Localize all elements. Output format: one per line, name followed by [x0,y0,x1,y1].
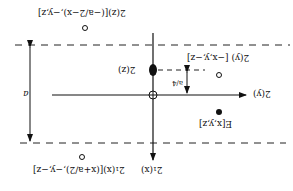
diagram-graphics [0,0,293,191]
open-point-bottom [80,155,85,160]
bottom-point-label: 2₁(x)[(x+a/2),−y,−z] [33,165,125,175]
cell-length-label: a [23,89,28,99]
right-point-label: 2(y) [−x,y,−z] [187,53,249,63]
x-axis-label: 2₁(x) [141,165,162,175]
quarter-label: a/4 [172,78,183,88]
filled-point-general [216,109,222,115]
twofold-z-symbol [149,64,157,76]
z-symbol-label: 2(z) [118,65,136,75]
y-axis-label: 2(y) [253,89,271,99]
open-point-right [217,73,222,78]
symmetry-diagram: 2(z)[(−a/2−x),−y,z] 2(y) [−x,y,−z] 2(y) … [0,0,293,191]
top-point-label: 2(z)[(−a/2−x),−y,z] [38,8,126,18]
open-point-top [83,26,88,31]
general-point-label: E[x,y,z] [199,119,232,129]
